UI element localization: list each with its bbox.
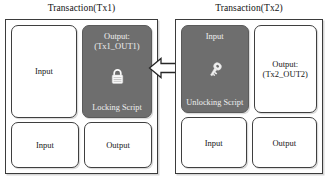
transaction-title-tx1: Transaction(Tx1) xyxy=(5,2,158,15)
cell-input-tx1-top[interactable]: Input xyxy=(11,25,77,118)
transaction-row-top-tx2: Input xyxy=(181,25,317,113)
cell-input-unlocking-tx2[interactable]: Input xyxy=(181,25,249,113)
transaction-box-tx2: Input xyxy=(175,19,323,174)
cell-label: Output: (Tx1_OUT1) xyxy=(94,31,139,51)
key-icon xyxy=(206,61,224,79)
transaction-inner-tx1: Input Output: (Tx1_OUT1) xyxy=(6,20,157,173)
cell-label: Input xyxy=(206,31,224,41)
transaction-inner-tx2: Input xyxy=(176,20,322,173)
transaction-group-tx1: Transaction(Tx1) Input Output: (Tx1_OUT1… xyxy=(5,2,158,174)
cell-input-tx2-bottom[interactable]: Input xyxy=(181,117,247,168)
cell-label: Input xyxy=(205,138,223,148)
cell-output-tx2-bottom[interactable]: Output xyxy=(252,117,318,168)
cell-input-tx1-bottom[interactable]: Input xyxy=(11,122,79,169)
diagram-canvas: Transaction(Tx1) Input Output: (Tx1_OUT1… xyxy=(0,0,331,184)
transaction-row-bottom-tx2: Input Output xyxy=(181,117,317,168)
cell-label: Output: (Tx2_OUT2) xyxy=(263,59,308,79)
cell-caption-unlocking-script: Unlocking Script xyxy=(186,98,243,107)
transaction-row-bottom-tx1: Input Output xyxy=(11,122,152,169)
cell-label: Output xyxy=(272,138,296,148)
cell-output-tx1-bottom[interactable]: Output xyxy=(84,122,152,169)
cell-output-tx2-top[interactable]: Output: (Tx2_OUT2) xyxy=(254,25,318,113)
transaction-row-top-tx1: Input Output: (Tx1_OUT1) xyxy=(11,25,152,118)
lock-icon xyxy=(110,68,125,85)
transaction-title-tx2: Transaction(Tx2) xyxy=(175,2,323,15)
cell-label: Input xyxy=(36,140,54,150)
transaction-group-tx2: Transaction(Tx2) Input xyxy=(175,2,323,174)
cell-output-locking-tx1[interactable]: Output: (Tx1_OUT1) Locking Script xyxy=(82,25,152,118)
cell-label: Input xyxy=(35,66,53,76)
cell-label: Output xyxy=(106,140,130,150)
transaction-box-tx1: Input Output: (Tx1_OUT1) xyxy=(5,19,158,174)
cell-caption-locking-script: Locking Script xyxy=(92,103,142,112)
